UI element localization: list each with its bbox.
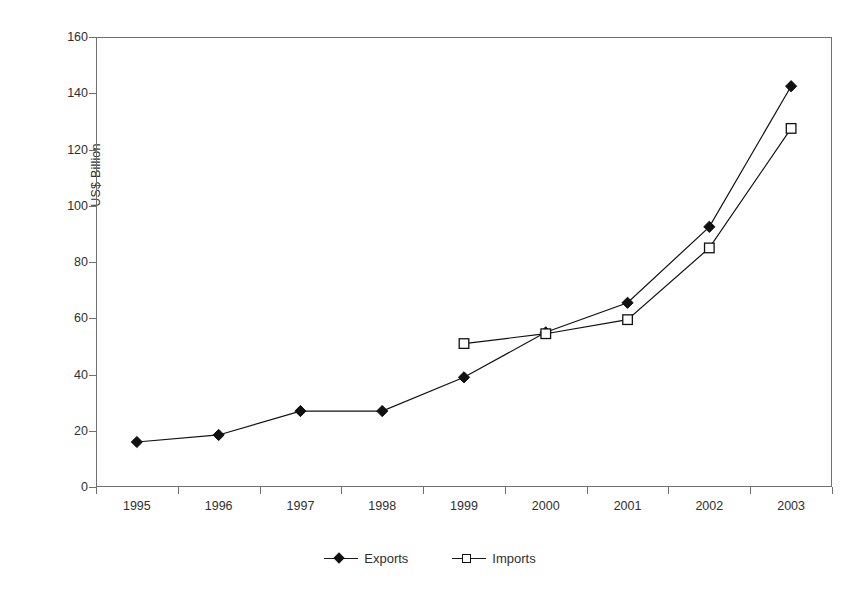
y-axis-tick-label: 20 — [44, 424, 88, 438]
chart-legend: ExportsImports — [0, 551, 860, 566]
filled-diamond-marker-icon — [324, 552, 358, 566]
x-axis-tick-mark — [832, 487, 833, 494]
data-point-marker-imports — [459, 339, 469, 349]
y-axis-tick-label: 80 — [44, 255, 88, 269]
data-point-marker-exports — [131, 436, 142, 447]
x-axis-tick-label: 2002 — [695, 499, 723, 513]
legend-item-exports[interactable]: Exports — [324, 551, 408, 566]
x-axis-tick-mark — [423, 487, 424, 494]
data-point-marker-imports — [705, 243, 715, 253]
legend-label: Exports — [364, 551, 408, 566]
y-axis-tick-mark — [89, 318, 96, 319]
y-axis-tick-label: 120 — [44, 143, 88, 157]
data-point-marker-imports — [541, 329, 551, 339]
y-axis-tick-label: 160 — [44, 30, 88, 44]
y-axis-tick-label: 140 — [44, 86, 88, 100]
legend-label: Imports — [492, 551, 535, 566]
data-point-marker-imports — [786, 124, 796, 134]
data-point-marker-exports — [213, 429, 224, 440]
x-axis-tick-label: 1995 — [123, 499, 151, 513]
x-axis-tick-label: 1997 — [287, 499, 315, 513]
y-axis-tick-label: 0 — [44, 480, 88, 494]
x-axis-tick-label: 1996 — [205, 499, 233, 513]
x-axis-tick-mark — [750, 487, 751, 494]
x-axis-tick-label: 1999 — [450, 499, 478, 513]
x-axis-tick-mark — [96, 487, 97, 494]
open-square-marker-icon — [452, 552, 486, 566]
series-line-imports — [464, 128, 791, 343]
series-line-exports — [137, 86, 791, 442]
x-axis-tick-mark — [668, 487, 669, 494]
y-axis-tick-mark — [89, 37, 96, 38]
x-axis-tick-mark — [587, 487, 588, 494]
data-point-marker-exports — [458, 372, 469, 383]
data-point-marker-exports — [295, 405, 306, 416]
y-axis-tick-mark — [89, 262, 96, 263]
y-axis-tick-label: 40 — [44, 368, 88, 382]
x-axis-tick-mark — [341, 487, 342, 494]
x-axis-tick-mark — [260, 487, 261, 494]
y-axis-tick-mark — [89, 93, 96, 94]
x-axis-tick-label: 2001 — [614, 499, 642, 513]
y-axis-tick-mark — [89, 206, 96, 207]
x-axis-tick-mark — [505, 487, 506, 494]
y-axis-tick-mark — [89, 150, 96, 151]
y-axis-tick-mark — [89, 375, 96, 376]
data-point-marker-imports — [623, 315, 633, 325]
data-point-marker-exports — [377, 405, 388, 416]
x-axis-tick-label: 2000 — [532, 499, 560, 513]
y-axis-tick-mark — [89, 431, 96, 432]
legend-item-imports[interactable]: Imports — [452, 551, 535, 566]
y-axis-tick-label: 60 — [44, 311, 88, 325]
y-axis-tick-mark — [89, 487, 96, 488]
plot-series-layer — [96, 37, 832, 487]
x-axis-tick-label: 1998 — [368, 499, 396, 513]
y-axis-tick-label: 100 — [44, 199, 88, 213]
x-axis-tick-mark — [178, 487, 179, 494]
line-chart: US$ Billion 020406080100120140160 199519… — [0, 0, 860, 594]
data-point-marker-exports — [786, 81, 797, 92]
x-axis-tick-label: 2003 — [777, 499, 805, 513]
